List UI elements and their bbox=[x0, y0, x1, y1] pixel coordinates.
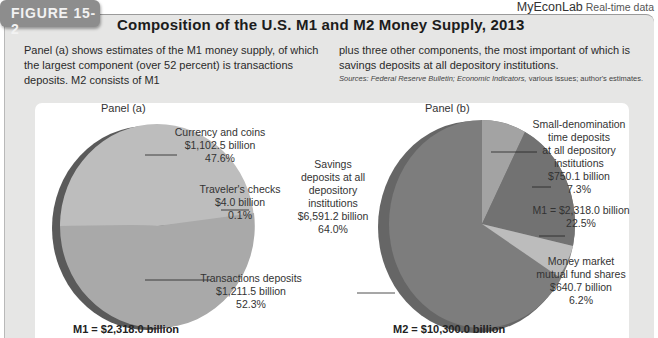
label-money-market: Money market mutual fund shares $640.7 b… bbox=[520, 255, 642, 307]
label-travelers-checks: Traveler's checks $4.0 billion 0.1% bbox=[190, 183, 290, 222]
brand-label[interactable]: MyEconLab Real-time data bbox=[517, 0, 654, 14]
m2-total: M2 = $10,300.0 billion bbox=[393, 323, 505, 335]
sources-plain: various issues; author's estimates. bbox=[527, 74, 643, 83]
panel-a-title: Panel (a) bbox=[101, 102, 146, 114]
panel-b-title: Panel (b) bbox=[425, 102, 470, 114]
label-savings: Savings deposits at all depository insti… bbox=[290, 158, 376, 236]
m1-total: M1 = $2,318.0 billion bbox=[73, 323, 179, 335]
label-transactions-deposits: Transactions deposits $1,211.5 billion 5… bbox=[186, 272, 316, 311]
label-currency: Currency and coins $1,102.5 billion 47.6… bbox=[155, 126, 285, 165]
sources-italic: Sources: Federal Reserve Bulletin; Econo… bbox=[339, 74, 527, 83]
brand-suffix: Real-time data bbox=[586, 1, 654, 13]
description-right: plus three other components, the most im… bbox=[339, 43, 639, 73]
brand-name: MyEconLab bbox=[517, 0, 583, 14]
figure-title: Composition of the U.S. M1 and M2 Money … bbox=[117, 16, 525, 33]
description-left: Panel (a) shows estimates of the M1 mone… bbox=[24, 43, 324, 88]
figure-label-tab: FIGURE 15-2 bbox=[0, 0, 100, 27]
label-m1-component: M1 = $2,318.0 billion 22.5% bbox=[520, 204, 642, 230]
sources-note: Sources: Federal Reserve Bulletin; Econo… bbox=[339, 74, 643, 83]
label-small-time-deposits: Small-denomination time deposits at all … bbox=[520, 118, 638, 196]
